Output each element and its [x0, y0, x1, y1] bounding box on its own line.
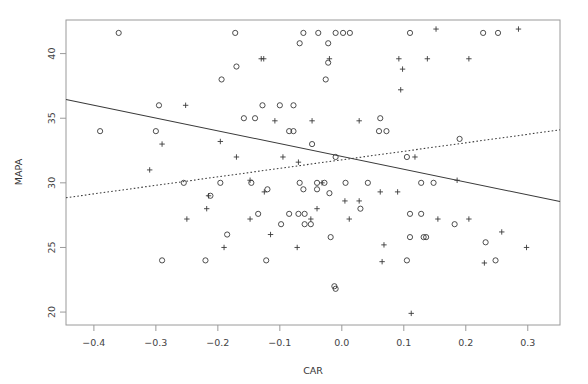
data-point-circle [277, 103, 282, 108]
data-point-plus [261, 56, 266, 61]
data-point-circle [256, 211, 261, 216]
data-point-circle [233, 30, 238, 35]
data-series-circle-markers [97, 30, 500, 291]
data-point-circle [260, 103, 265, 108]
data-point-plus [319, 180, 324, 185]
y-tick-label: 35 [47, 112, 58, 124]
data-point-circle [407, 211, 412, 216]
data-point-plus [379, 259, 384, 264]
data-point-circle [365, 180, 370, 185]
data-point-circle [301, 30, 306, 35]
data-point-plus [347, 216, 352, 221]
data-point-circle [483, 240, 488, 245]
chart-canvas: −0.4−0.3−0.2−0.10.00.10.20.3 2025303540 … [0, 0, 588, 384]
data-point-circle [252, 116, 257, 121]
x-axis-tick-marks [94, 325, 528, 331]
data-point-plus [184, 216, 189, 221]
y-axis-tick-labels: 2025303540 [47, 48, 58, 319]
data-point-plus [314, 206, 319, 211]
data-point-circle [326, 60, 331, 65]
x-tick-label: −0.3 [144, 337, 167, 348]
y-axis-title: MAPA [13, 158, 24, 185]
data-point-plus [466, 56, 471, 61]
data-point-circle [347, 30, 352, 35]
data-point-circle [323, 77, 328, 82]
data-point-plus [234, 154, 239, 159]
data-point-plus [398, 87, 403, 92]
data-point-plus [308, 216, 313, 221]
y-tick-label: 40 [47, 48, 58, 60]
data-point-circle [287, 211, 292, 216]
data-point-plus [482, 260, 487, 265]
data-point-plus [247, 178, 252, 183]
data-point-circle [302, 211, 307, 216]
data-point-circle [452, 222, 457, 227]
data-point-plus [204, 206, 209, 211]
data-point-plus [262, 189, 267, 194]
x-tick-label: −0.4 [82, 337, 105, 348]
data-point-circle [327, 191, 332, 196]
data-point-circle [291, 103, 296, 108]
data-point-circle [225, 232, 230, 237]
data-point-circle [265, 187, 270, 192]
data-point-plus [381, 242, 386, 247]
data-point-circle [343, 180, 348, 185]
data-point-circle [378, 116, 383, 121]
data-point-plus [159, 141, 164, 146]
data-point-circle [301, 187, 306, 192]
data-point-circle [407, 30, 412, 35]
data-point-circle [264, 258, 269, 263]
data-point-circle [457, 136, 462, 141]
data-point-circle [302, 222, 307, 227]
y-tick-label: 25 [47, 241, 58, 253]
data-point-circle [493, 258, 498, 263]
data-point-circle [314, 187, 319, 192]
data-point-circle [297, 180, 302, 185]
x-tick-label: −0.2 [206, 337, 229, 348]
data-point-circle [156, 103, 161, 108]
data-point-circle [116, 30, 121, 35]
data-point-plus [516, 26, 521, 31]
data-point-plus [183, 103, 188, 108]
data-point-circle [308, 222, 313, 227]
data-point-circle [153, 129, 158, 134]
data-point-circle [431, 180, 436, 185]
data-point-plus [524, 245, 529, 250]
data-point-plus [499, 229, 504, 234]
data-series-plus-markers [147, 26, 529, 316]
x-tick-label: −0.1 [268, 337, 291, 348]
data-point-plus [272, 118, 277, 123]
data-point-circle [481, 30, 486, 35]
data-point-circle [419, 180, 424, 185]
data-point-plus [396, 56, 401, 61]
data-point-circle [297, 41, 302, 46]
data-point-plus [378, 189, 383, 194]
data-point-plus [409, 311, 414, 316]
data-point-circle [407, 235, 412, 240]
data-point-circle [278, 222, 283, 227]
x-axis-tick-labels: −0.4−0.3−0.2−0.10.00.10.20.3 [82, 337, 535, 348]
data-point-circle [333, 30, 338, 35]
data-point-circle [219, 77, 224, 82]
data-point-circle [384, 129, 389, 134]
data-point-plus [466, 216, 471, 221]
fit-line-dotted [66, 130, 560, 198]
fit-line-solid [66, 99, 560, 201]
data-point-circle [249, 180, 254, 185]
data-point-plus [400, 66, 405, 71]
data-point-circle [97, 129, 102, 134]
data-point-plus [412, 154, 417, 159]
x-tick-label: 0.1 [396, 337, 411, 348]
data-point-plus [147, 167, 152, 172]
scatter-plot-figure: −0.4−0.3−0.2−0.10.00.10.20.3 2025303540 … [0, 0, 588, 384]
data-point-plus [206, 193, 211, 198]
data-point-plus [296, 159, 301, 164]
data-point-circle [419, 211, 424, 216]
data-point-circle [314, 180, 319, 185]
data-point-plus [247, 216, 252, 221]
data-point-plus [221, 245, 226, 250]
data-point-circle [241, 116, 246, 121]
data-point-plus [433, 26, 438, 31]
plot-frame [66, 20, 560, 325]
x-axis-title: CAR [303, 365, 323, 376]
